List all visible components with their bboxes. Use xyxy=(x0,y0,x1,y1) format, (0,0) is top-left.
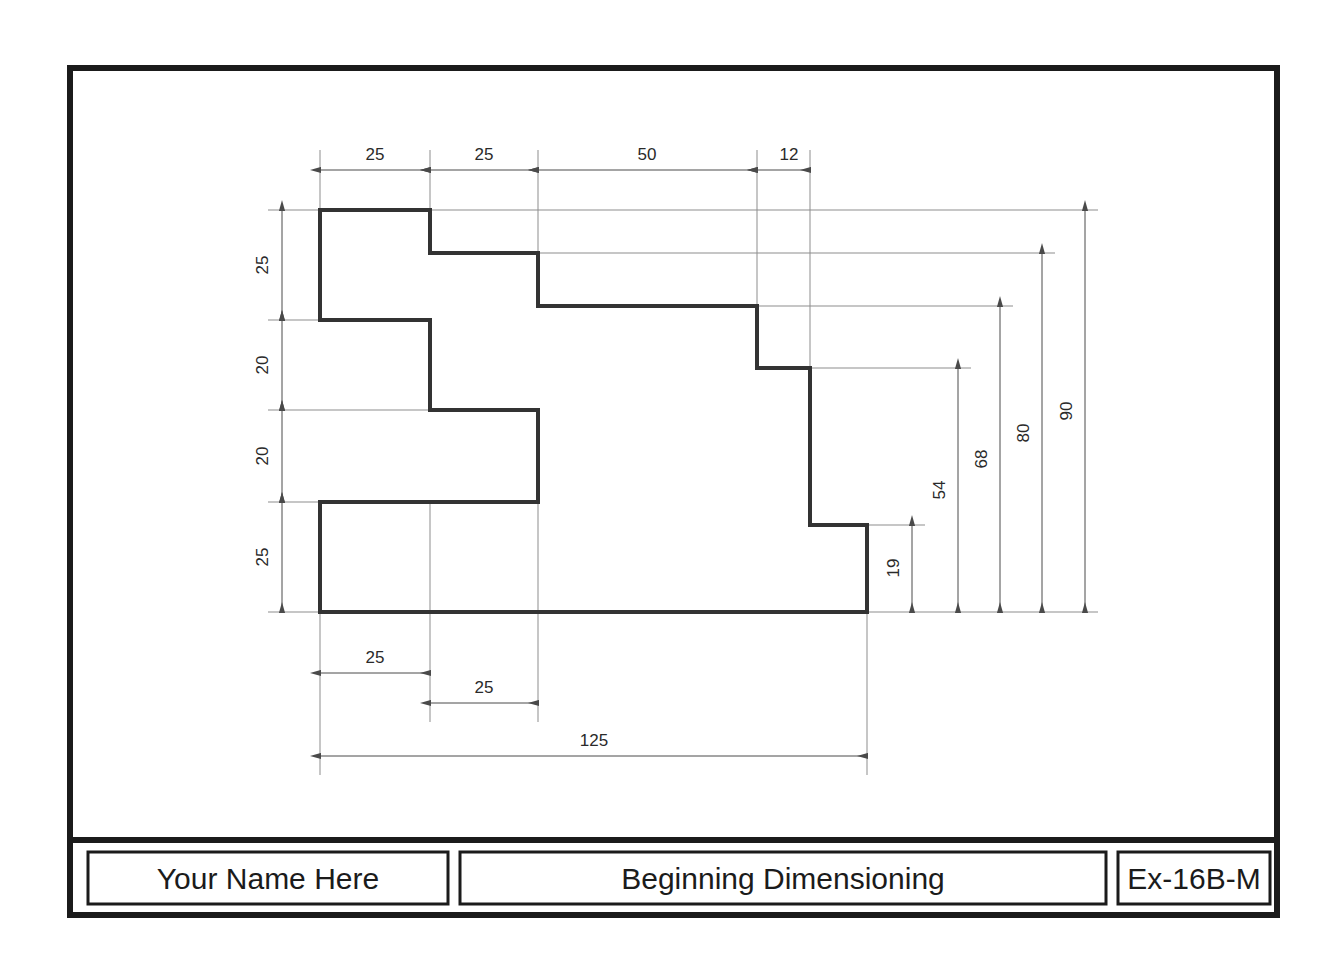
dim-label-left-2: 20 xyxy=(253,356,272,375)
dim-label-top-4: 12 xyxy=(780,145,799,164)
drawing-sheet: Your Name Here Beginning Dimensioning Ex… xyxy=(0,0,1341,973)
title-block-name-text: Your Name Here xyxy=(157,862,379,895)
part-outline xyxy=(320,210,867,612)
sheet-border xyxy=(70,68,1277,915)
dim-label-left-1: 25 xyxy=(253,256,272,275)
title-block-title-text: Beginning Dimensioning xyxy=(621,862,945,895)
dim-label-left-3: 20 xyxy=(253,447,272,466)
technical-drawing-canvas: Your Name Here Beginning Dimensioning Ex… xyxy=(0,0,1341,973)
dim-label-bottom-1: 25 xyxy=(366,648,385,667)
dim-label-right-54: 54 xyxy=(930,481,949,500)
title-block: Your Name Here Beginning Dimensioning Ex… xyxy=(70,840,1277,904)
dim-label-top-1: 25 xyxy=(366,145,385,164)
dim-label-right-80: 80 xyxy=(1014,424,1033,443)
dim-label-top-3: 50 xyxy=(638,145,657,164)
dim-label-right-19: 19 xyxy=(884,559,903,578)
dim-label-bottom-2: 25 xyxy=(475,678,494,697)
dim-label-left-4: 25 xyxy=(253,548,272,567)
dim-label-bottom-overall: 125 xyxy=(580,731,608,750)
dim-label-right-90: 90 xyxy=(1057,402,1076,421)
title-block-number-text: Ex-16B-M xyxy=(1127,862,1260,895)
dim-label-top-2: 25 xyxy=(475,145,494,164)
dim-label-right-68: 68 xyxy=(972,450,991,469)
